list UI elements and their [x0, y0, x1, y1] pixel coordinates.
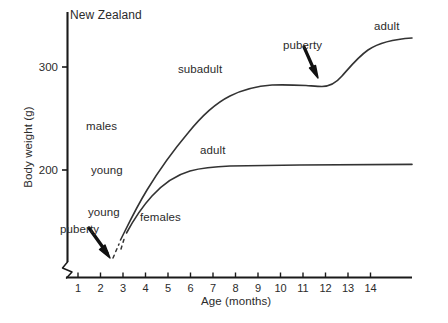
x-tick-label-6: 6: [181, 283, 201, 294]
x-tick-label-14: 14: [361, 283, 381, 294]
x-tick-label-3: 3: [113, 283, 133, 294]
x-tick-label-7: 7: [203, 283, 223, 294]
stage-label-young-male: young: [91, 165, 123, 177]
x-tick-label-1: 1: [68, 283, 88, 294]
series-label-females: females: [140, 212, 181, 224]
x-tick-label-8: 8: [226, 283, 246, 294]
stage-label-subadult: subadult: [178, 64, 222, 76]
stage-label-young-female: young: [88, 207, 120, 219]
x-tick-label-9: 9: [248, 283, 268, 294]
y-axis-title: Body weight (g): [23, 92, 35, 202]
x-tick-label-10: 10: [271, 283, 291, 294]
stage-label-adult-female: adult: [200, 145, 225, 157]
series-males-dashed-origin: [113, 244, 119, 258]
x-tick-label-12: 12: [316, 283, 336, 294]
x-tick-label-11: 11: [293, 283, 313, 294]
arrow-label-puberty-females: puberty: [60, 224, 99, 236]
arrow-label-puberty-males: puberty: [283, 40, 322, 52]
chart-figure: New Zealand Body weight (g) Age (months)…: [0, 0, 448, 323]
y-tick-label-300: 300: [24, 61, 58, 73]
chart-title: New Zealand: [70, 9, 142, 21]
y-axis-break-icon: [63, 262, 73, 278]
x-tick-label-13: 13: [338, 283, 358, 294]
chart-plot-area: [0, 0, 448, 323]
series-label-males: males: [86, 121, 117, 133]
y-tick-label-200: 200: [24, 164, 58, 176]
x-axis-title: Age (months): [201, 296, 271, 308]
puberty-arrow-males-icon: [304, 47, 318, 78]
series-males-curve: [121, 38, 413, 240]
stage-label-adult-male: adult: [374, 21, 399, 33]
x-tick-label-5: 5: [158, 283, 178, 294]
x-tick-label-2: 2: [91, 283, 111, 294]
x-tick-label-4: 4: [136, 283, 156, 294]
